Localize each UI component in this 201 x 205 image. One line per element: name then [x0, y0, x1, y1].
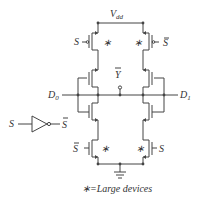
large-device-mark: ∗: [136, 143, 145, 154]
d0-label: D0: [47, 89, 59, 102]
select-bar-label-left-bottom: S: [73, 143, 78, 154]
legend-text: =Large devices: [90, 183, 152, 194]
inverter-output-label: S: [62, 119, 67, 130]
vdd-label: Vdd: [110, 8, 124, 21]
circuit-diagram: Vdd S ∗ ∗ S Y D0 D1 S S S ∗ ∗ S ∗ =Large…: [0, 0, 201, 205]
inverter-input-label: S: [9, 118, 14, 129]
d1-label: D1: [179, 89, 191, 102]
select-bar-label-right-top: S: [163, 37, 168, 48]
output-label: Y: [115, 69, 122, 80]
large-device-mark: ∗: [103, 37, 112, 48]
select-label-left-top: S: [74, 36, 79, 47]
output-terminal: [118, 86, 121, 89]
large-device-mark: ∗: [101, 143, 110, 154]
inverter-icon: [32, 116, 47, 132]
select-label-right-bottom: S: [159, 143, 164, 154]
large-device-mark: ∗: [134, 37, 143, 48]
